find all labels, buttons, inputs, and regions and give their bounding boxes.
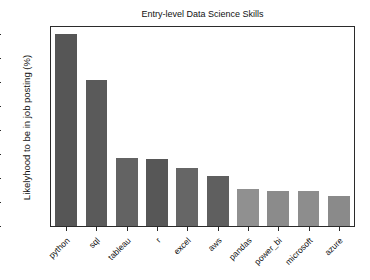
y-tick-mark [0,58,1,59]
x-tick-label-text: azure [322,235,344,257]
y-axis-label: Likelyhood to be in job posting (%) [21,28,32,228]
plot-area: 0510152025303540 [51,27,354,226]
x-tick-mark [278,227,279,231]
x-tick-label-text: python [47,235,72,260]
bar [207,176,229,226]
bar [298,191,320,226]
bar [237,189,259,226]
x-tick-mark [157,227,158,231]
x-tick-label-text: tableau [106,235,133,262]
x-tick-mark [127,227,128,231]
x-tick-label-text: pandas [227,235,254,262]
bar [267,191,289,226]
x-tick-mark [187,227,188,231]
x-tick-mark [66,227,67,231]
x-tick-label-text: excel [172,235,193,256]
x-tick-label-text: sql [87,235,102,250]
y-tick-mark [0,34,1,35]
chart-figure: Entry-level Data Science Skills Likelyho… [0,0,370,280]
bar [328,196,350,226]
bar [146,159,168,226]
y-tick-mark [0,178,1,179]
bar [86,80,108,226]
x-tick-label-text: aws [206,235,224,253]
bar [176,168,198,226]
x-tick-mark [248,227,249,231]
y-tick-mark [0,154,1,155]
y-tick-mark [0,130,1,131]
y-tick-mark [0,226,1,227]
x-tick-mark [339,227,340,231]
bar [55,34,77,226]
chart-title: Entry-level Data Science Skills [50,9,355,20]
y-tick-mark [0,82,1,83]
y-tick-mark [0,202,1,203]
x-tick-mark [218,227,219,231]
y-tick-mark [0,106,1,107]
x-tick-label-text: r [154,235,163,244]
bar [116,158,138,226]
x-tick-mark [96,227,97,231]
x-tick-mark [309,227,310,231]
